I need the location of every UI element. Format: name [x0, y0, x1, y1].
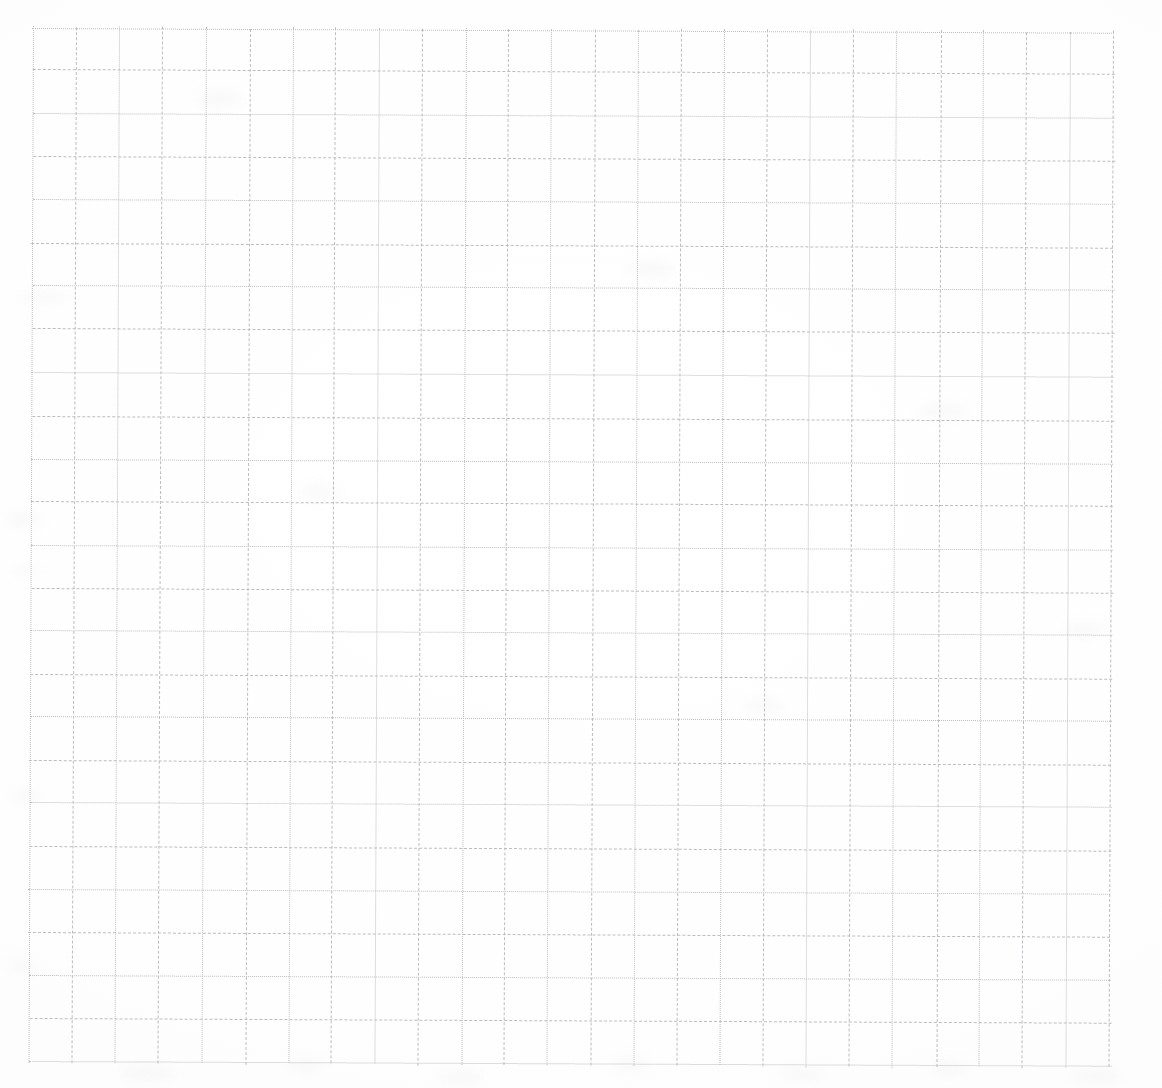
paper-smudges — [0, 0, 1162, 1088]
grid-line-horizontal — [29, 802, 1111, 808]
grid-line-horizontal — [30, 716, 1112, 722]
grid-line-vertical — [849, 30, 855, 1066]
grid-line-horizontal — [32, 69, 1114, 75]
grid-line-vertical — [375, 28, 381, 1064]
paper-smudge — [930, 1062, 970, 1074]
paper-smudge — [196, 92, 242, 106]
grid-line-vertical — [71, 27, 77, 1063]
grid-line-horizontal — [29, 1061, 1111, 1067]
grid-line-vertical — [590, 29, 596, 1065]
grid-line-vertical — [936, 30, 942, 1066]
grid-line-vertical — [245, 29, 251, 1065]
grid-line-horizontal — [31, 372, 1113, 378]
grid-line-horizontal — [31, 630, 1113, 636]
grid-line-horizontal — [30, 545, 1112, 551]
paper-smudge — [18, 292, 70, 302]
grid-line-horizontal — [29, 846, 1111, 852]
grid-line-horizontal — [28, 889, 1110, 895]
grid-line-horizontal — [31, 459, 1113, 465]
scanned-page — [0, 0, 1162, 1088]
grid-line-horizontal — [34, 156, 1116, 162]
paper-smudge — [438, 1072, 482, 1084]
grid-line-vertical — [634, 30, 640, 1066]
paper-surface — [0, 0, 1162, 1088]
grid-line-horizontal — [30, 1018, 1112, 1024]
grid-line-vertical — [115, 27, 121, 1063]
paper-smudge — [628, 262, 676, 276]
grid-line-vertical — [29, 26, 35, 1062]
paper-smudge — [6, 512, 40, 526]
grid-line-horizontal — [33, 199, 1115, 205]
grid-line-vertical — [1022, 32, 1028, 1068]
grid-line-vertical — [417, 29, 423, 1065]
paper-smudge — [8, 960, 36, 972]
grid-line-vertical — [546, 29, 552, 1065]
paper-smudge — [1072, 1070, 1120, 1082]
grid-line-horizontal — [29, 760, 1111, 766]
grid-line-horizontal — [33, 328, 1115, 334]
paper-smudge — [742, 700, 786, 712]
paper-smudge — [1064, 624, 1106, 636]
grid-line-horizontal — [33, 113, 1115, 119]
grid-line-horizontal — [31, 243, 1113, 249]
grid-line-vertical — [720, 29, 726, 1065]
grid-line-vertical — [158, 27, 164, 1063]
grid-line-horizontal — [31, 674, 1113, 680]
paper-smudge — [10, 790, 40, 802]
grid-line-vertical — [805, 31, 811, 1067]
grid-paper-ruling — [28, 27, 1113, 1066]
grid-line-vertical — [1066, 31, 1072, 1067]
grid-line-vertical — [331, 27, 337, 1063]
paper-smudge — [918, 404, 968, 418]
grid-line-vertical — [288, 27, 294, 1063]
grid-line-vertical — [201, 27, 207, 1063]
grid-line-vertical — [762, 29, 768, 1065]
grid-line-vertical — [979, 30, 985, 1066]
grid-line-horizontal — [28, 932, 1110, 938]
grid-line-vertical — [1108, 31, 1114, 1067]
paper-smudge — [780, 1068, 826, 1080]
grid-line-horizontal — [33, 285, 1115, 291]
paper-smudge — [286, 1060, 326, 1072]
grid-line-horizontal — [29, 975, 1111, 981]
grid-lines-container — [28, 27, 1113, 1066]
grid-line-horizontal — [31, 588, 1113, 594]
grid-line-vertical — [504, 29, 510, 1065]
grid-line-vertical — [676, 29, 682, 1065]
paper-smudge — [14, 566, 40, 576]
grid-line-horizontal — [32, 416, 1114, 422]
grid-line-horizontal — [31, 501, 1113, 507]
paper-smudge — [300, 486, 340, 498]
grid-line-vertical — [892, 31, 898, 1067]
grid-line-horizontal — [32, 28, 1114, 34]
paper-smudge — [120, 1066, 176, 1080]
paper-smudge — [612, 1058, 650, 1070]
grid-line-vertical — [461, 28, 467, 1064]
